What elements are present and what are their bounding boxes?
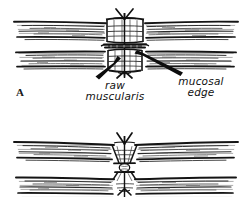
label-raw-muscularis: raw muscularis <box>77 80 153 101</box>
figure-canvas: A raw muscularis mucosal edge <box>0 0 249 197</box>
label-mucosal-edge-line2: edge <box>168 87 234 98</box>
label-mucosal-edge: mucosal edge <box>168 76 234 97</box>
panel-a-left-lower-tissue <box>16 51 105 69</box>
panel-b-left-lower-tissue <box>16 177 114 197</box>
panel-label-a: A <box>16 87 24 98</box>
panel-a-mucosal-edge-band <box>101 44 149 48</box>
panel-a-left-upper-tissue <box>14 22 106 41</box>
panel-a-right-lower-tissue <box>146 51 236 69</box>
panel-a-right-upper-tissue <box>145 22 238 41</box>
panel-b-right-lower-tissue <box>135 177 236 197</box>
label-raw-muscularis-line2: muscularis <box>77 91 153 102</box>
